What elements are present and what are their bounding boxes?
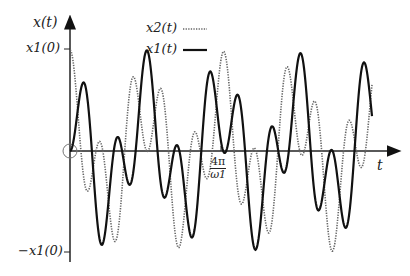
- legend-label-x1: x1(t): [146, 41, 177, 56]
- ytick-bottom-label: −x1(0): [18, 243, 63, 258]
- ytick-top-label: x1(0): [26, 40, 60, 55]
- legend-label-x2: x2(t): [146, 20, 177, 35]
- y-axis-label: x(t): [33, 14, 57, 30]
- x-axis-label: t: [377, 157, 383, 173]
- xtick-denominator: ω1: [210, 169, 226, 181]
- xtick-label: 4π ω1: [210, 156, 226, 181]
- chart-plot: [0, 0, 410, 276]
